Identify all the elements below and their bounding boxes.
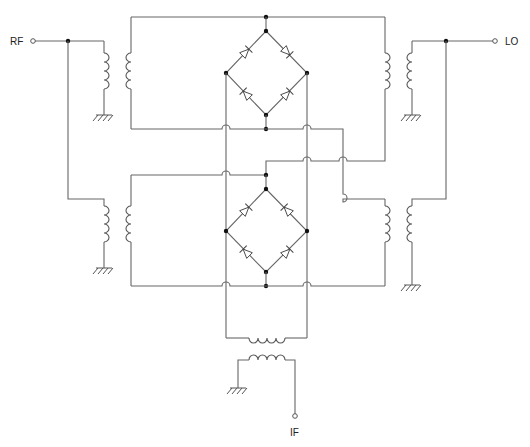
rf-port: RF	[10, 36, 104, 206]
diode-bridge-upper	[224, 29, 309, 117]
rf-label: RF	[10, 36, 23, 47]
if-terminal	[293, 414, 298, 419]
if-label: IF	[290, 427, 299, 438]
rf-upper-transformer	[93, 17, 131, 129]
diode-icon	[280, 246, 293, 259]
rf-terminal	[31, 39, 36, 44]
ground-icon	[93, 268, 113, 274]
ground-icon	[227, 388, 247, 394]
if-transformer	[226, 338, 307, 414]
ground-icon	[401, 115, 421, 121]
lo-label: LO	[505, 36, 519, 47]
diode-bridge-lower	[224, 187, 309, 274]
lo-lower-transformer	[385, 199, 421, 291]
mixer-schematic: RF	[0, 0, 530, 447]
lo-port: LO	[412, 36, 519, 206]
ground-icon	[93, 115, 113, 121]
lo-terminal	[493, 39, 498, 44]
rf-lower-transformer	[93, 175, 131, 286]
if-port: IF	[290, 414, 299, 438]
ground-icon	[401, 285, 421, 291]
